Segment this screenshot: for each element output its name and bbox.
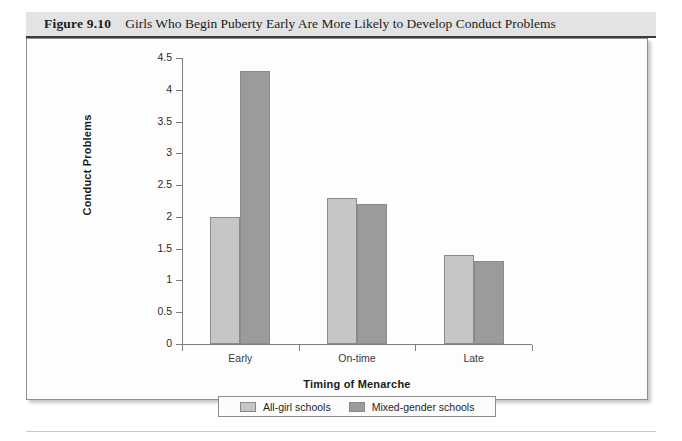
x-axis-tick <box>182 345 183 351</box>
y-axis-tick: 3 <box>176 153 182 154</box>
y-axis-tick: 1.5 <box>176 249 182 250</box>
y-axis-tick: 2 <box>176 217 182 218</box>
x-axis-line <box>182 344 532 345</box>
y-axis-tick: 2.5 <box>176 185 182 186</box>
page-rule-divider <box>26 431 656 432</box>
y-axis-tick-label: 2.5 <box>157 178 172 190</box>
y-axis-line <box>182 58 183 345</box>
bar <box>210 217 240 344</box>
x-axis-category-label: Late <box>414 352 534 364</box>
y-axis-tick: 0.5 <box>176 312 182 313</box>
legend-swatch <box>240 402 256 412</box>
legend-label: All-girl schools <box>263 401 331 413</box>
figure-caption: Figure 9.10Girls Who Begin Puberty Early… <box>44 16 556 32</box>
bar <box>357 204 387 344</box>
legend-label: Mixed-gender schools <box>372 401 475 413</box>
y-axis-tick: 4 <box>176 90 182 91</box>
y-axis-tick-label: 0 <box>166 337 172 349</box>
x-axis-category-label: Early <box>180 352 300 364</box>
y-axis-tick-label: 0.5 <box>157 305 172 317</box>
legend-entry: Mixed-gender schools <box>349 401 475 413</box>
y-axis-tick-label: 1 <box>166 273 172 285</box>
figure-block: Figure 9.10Girls Who Begin Puberty Early… <box>26 12 656 404</box>
legend-entry: All-girl schools <box>240 401 331 413</box>
y-axis-tick-label: 4.5 <box>157 51 172 63</box>
y-axis-tick-label: 2 <box>166 210 172 222</box>
figure-number: Figure 9.10 <box>44 16 111 31</box>
figure-panel: Conduct Problems 00.511.522.533.544.5 Ea… <box>26 38 648 400</box>
legend-swatch <box>349 402 365 412</box>
y-axis-tick: 3.5 <box>176 122 182 123</box>
bar <box>327 198 357 344</box>
x-axis-tick <box>532 345 533 351</box>
bar <box>240 71 270 344</box>
bar <box>444 255 474 344</box>
y-axis-tick: 1 <box>176 280 182 281</box>
y-axis-tick: 4.5 <box>176 58 182 59</box>
chart-legend: All-girl schoolsMixed-gender schools <box>218 396 496 417</box>
figure-caption-bar: Figure 9.10Girls Who Begin Puberty Early… <box>26 12 656 38</box>
y-axis-title: Conduct Problems <box>81 100 93 230</box>
y-axis-tick-label: 1.5 <box>157 242 172 254</box>
bar-chart: Conduct Problems 00.511.522.533.544.5 Ea… <box>27 39 647 399</box>
y-axis-tick-label: 3 <box>166 146 172 158</box>
y-axis-tick-label: 4 <box>166 83 172 95</box>
x-axis-title: Timing of Menarche <box>182 378 532 390</box>
x-axis-tick <box>415 345 416 351</box>
bar <box>474 261 504 344</box>
x-axis-tick <box>299 345 300 351</box>
y-axis-tick-label: 3.5 <box>157 115 172 127</box>
x-axis-category-label: On-time <box>297 352 417 364</box>
figure-title: Girls Who Begin Puberty Early Are More L… <box>125 16 556 31</box>
